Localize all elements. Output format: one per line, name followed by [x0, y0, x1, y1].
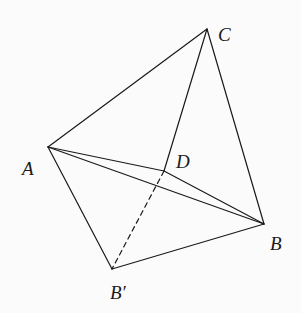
edge-a-bp: [48, 147, 112, 269]
edges-group: [48, 29, 264, 269]
vertex-label-b: B: [270, 233, 282, 254]
edge-c-d: [164, 29, 207, 171]
vertex-label-b-prime: B′: [110, 282, 127, 303]
edge-d-b: [164, 171, 264, 224]
edge-bp-b: [112, 224, 264, 269]
vertex-label-c: C: [218, 24, 231, 45]
vertex-label-a: A: [20, 158, 34, 179]
edge-a-b: [48, 147, 264, 224]
edge-a-c: [48, 29, 207, 147]
vertex-label-d: D: [175, 151, 190, 172]
geometry-diagram: A C D B B′: [0, 0, 301, 313]
diagram-svg: A C D B B′: [0, 0, 301, 313]
edge-c-b: [207, 29, 264, 224]
labels-group: A C D B B′: [20, 24, 282, 303]
